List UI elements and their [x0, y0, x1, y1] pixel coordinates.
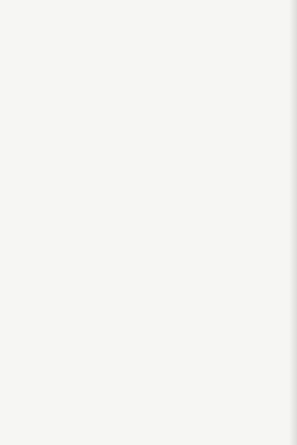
filtration-pressure-figure: [0, 0, 297, 445]
chart-canvas: [0, 0, 297, 445]
